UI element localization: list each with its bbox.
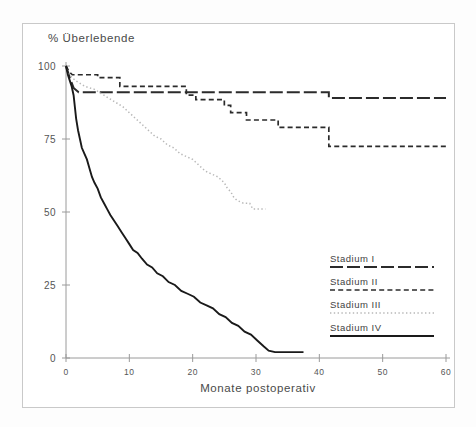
- y-tick-label: 25: [44, 280, 56, 291]
- legend-label-2: Stadium II: [330, 276, 378, 287]
- series-line-4: [66, 66, 304, 352]
- axes: [66, 62, 450, 358]
- legend-label-4: Stadium IV: [330, 322, 382, 333]
- y-axis-title: % Überlebende: [48, 32, 135, 44]
- y-tick-label: 100: [38, 61, 56, 72]
- y-tick-label: 75: [44, 134, 56, 145]
- legend-label-1: Stadium I: [330, 253, 375, 264]
- series-lines: [66, 66, 446, 352]
- y-tick-label: 0: [50, 353, 56, 364]
- x-axis-ticks: 0102030405060: [63, 354, 451, 377]
- x-tick-label: 60: [441, 367, 451, 377]
- survival-chart: 0255075100 0102030405060 % Überlebende M…: [0, 0, 476, 427]
- series-line-2: [66, 66, 446, 146]
- figure-canvas: 0255075100 0102030405060 % Überlebende M…: [0, 0, 476, 427]
- y-axis-ticks: 0255075100: [38, 61, 70, 364]
- y-tick-label: 50: [44, 207, 56, 218]
- x-axis-title: Monate postoperativ: [200, 382, 316, 394]
- chart-legend: Stadium IStadium IIStadium IIIStadium IV: [330, 253, 434, 336]
- series-line-3: [66, 66, 266, 209]
- x-tick-label: 30: [251, 367, 261, 377]
- series-line-1: [66, 66, 446, 98]
- x-tick-label: 40: [314, 367, 324, 377]
- x-tick-label: 50: [377, 367, 387, 377]
- x-tick-label: 10: [124, 367, 134, 377]
- legend-label-3: Stadium III: [330, 299, 381, 310]
- x-tick-label: 0: [63, 367, 68, 377]
- x-tick-label: 20: [187, 367, 197, 377]
